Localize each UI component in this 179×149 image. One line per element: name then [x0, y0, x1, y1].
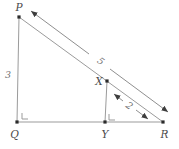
triangle-sides: [17, 17, 163, 122]
measure-arrow-XR-lower: [136, 110, 148, 119]
point-R: [161, 120, 164, 123]
label-P: P: [14, 1, 23, 13]
measure-arrow-PR-lower: [110, 69, 168, 112]
triangle-diagram: P Q R X Y 3 5 2: [0, 0, 179, 149]
vertex-labels: P Q R X Y: [10, 1, 168, 141]
label-X: X: [94, 75, 103, 87]
geometry-figure: P Q R X Y 3 5 2: [0, 0, 179, 149]
point-X: [105, 79, 108, 82]
segment-XY: [105, 81, 107, 122]
measure-arrow-XR-upper: [114, 94, 123, 101]
measure-label-PR: 5: [95, 55, 106, 67]
right-angle-mark-Y: [109, 114, 115, 120]
right-angle-mark-Q: [22, 113, 28, 119]
label-Q: Q: [10, 128, 19, 141]
label-Y: Y: [102, 128, 110, 140]
point-P: [17, 15, 20, 18]
side-PQ: [17, 17, 19, 122]
measure-labels: 3 5 2: [5, 55, 135, 112]
point-Q: [15, 120, 18, 123]
measure-label-PQ: 3: [5, 69, 11, 80]
measure-label-XR: 2: [123, 99, 135, 112]
label-R: R: [160, 128, 169, 140]
point-Y: [103, 120, 106, 123]
hypotenuse-PR: [19, 17, 163, 122]
